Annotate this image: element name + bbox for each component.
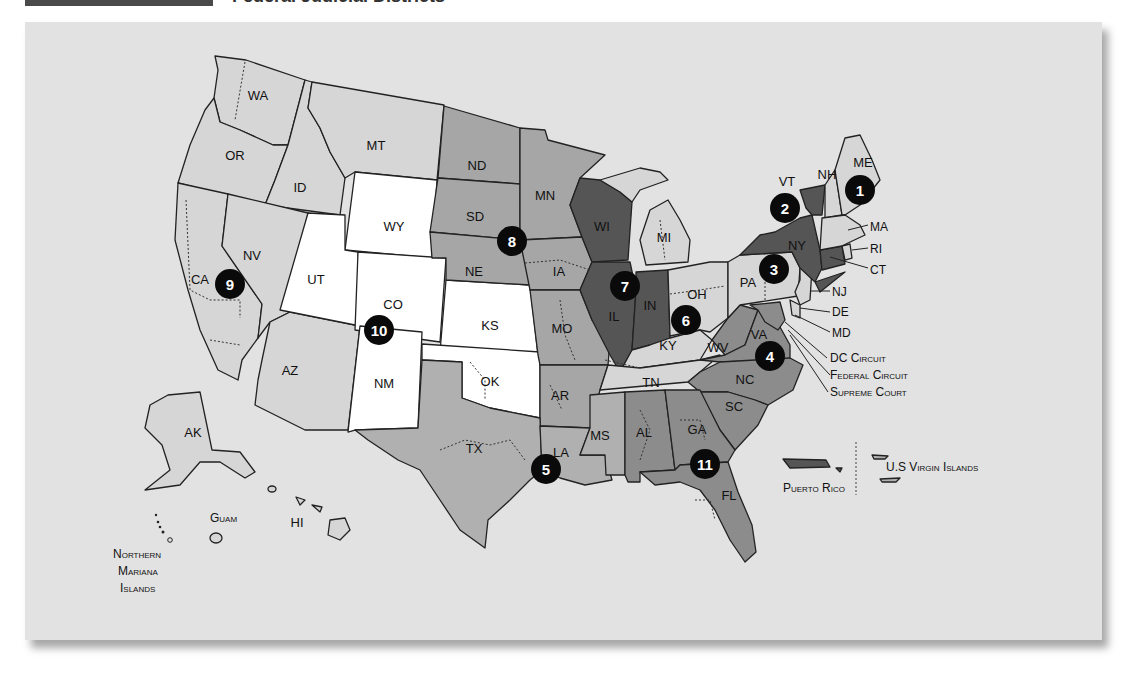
svg-text:AL: AL: [636, 425, 652, 440]
svg-text:VA: VA: [751, 327, 768, 342]
svg-text:VT: VT: [779, 174, 796, 189]
svg-text:TX: TX: [466, 441, 483, 456]
circuit-marker-3: 3: [759, 254, 789, 284]
svg-text:NC: NC: [736, 372, 755, 387]
circuit-marker-5: 5: [531, 454, 561, 484]
svg-text:ID: ID: [294, 180, 307, 195]
svg-text:HI: HI: [291, 515, 304, 530]
svg-text:Supreme Court: Supreme Court: [830, 385, 907, 399]
svg-text:NE: NE: [465, 264, 483, 279]
svg-text:SD: SD: [466, 209, 484, 224]
svg-text:MO: MO: [552, 321, 573, 336]
puerto-rico-shape: [783, 459, 830, 468]
circuit-map: WA OR ID MT WY CA NV UT CO AZ NM ND SD N…: [0, 0, 1127, 678]
svg-text:GA: GA: [688, 422, 707, 437]
guam-island: [210, 533, 222, 543]
svg-text:MN: MN: [535, 188, 555, 203]
svg-text:10: 10: [371, 322, 388, 339]
svg-text:SC: SC: [725, 399, 743, 414]
virgin-islands-shape-1: [872, 455, 888, 459]
svg-text:NM: NM: [374, 376, 394, 391]
svg-text:IL: IL: [609, 309, 620, 324]
svg-text:DC Circuit: DC Circuit: [830, 351, 886, 365]
svg-text:OK: OK: [481, 374, 500, 389]
svg-text:KY: KY: [659, 338, 677, 353]
svg-text:Mariana: Mariana: [118, 564, 158, 578]
svg-text:CA: CA: [191, 272, 209, 287]
svg-text:MI: MI: [657, 230, 671, 245]
svg-text:Islands: Islands: [120, 581, 155, 595]
circuit-marker-9: 9: [215, 269, 245, 299]
circuit-marker-7: 7: [610, 271, 640, 301]
svg-text:Federal Circuit: Federal Circuit: [830, 368, 908, 382]
svg-text:NH: NH: [818, 167, 837, 182]
circuit-marker-8: 8: [497, 226, 527, 256]
svg-text:AK: AK: [184, 425, 202, 440]
svg-text:OH: OH: [687, 287, 707, 302]
svg-text:MT: MT: [367, 138, 386, 153]
state-ak: [145, 392, 255, 490]
svg-text:11: 11: [697, 456, 713, 473]
svg-text:3: 3: [770, 261, 778, 278]
svg-text:WA: WA: [248, 88, 269, 103]
svg-text:7: 7: [621, 278, 629, 295]
svg-text:ME: ME: [853, 155, 873, 170]
virgin-islands-shape-2: [880, 478, 900, 482]
svg-text:MA: MA: [870, 220, 888, 234]
svg-text:Puerto Rico: Puerto Rico: [783, 481, 845, 495]
state-hi: [296, 497, 350, 540]
svg-text:MS: MS: [590, 428, 610, 443]
state-ma: [820, 215, 865, 250]
svg-text:4: 4: [766, 348, 775, 365]
svg-text:PA: PA: [740, 275, 757, 290]
svg-text:TN: TN: [642, 375, 659, 390]
svg-text:IN: IN: [644, 298, 657, 313]
svg-text:OR: OR: [225, 148, 245, 163]
state-hi-kauai: [268, 486, 276, 492]
circuit-marker-6: 6: [671, 305, 701, 335]
svg-text:AZ: AZ: [282, 363, 299, 378]
svg-text:2: 2: [781, 200, 789, 217]
svg-text:UT: UT: [307, 272, 324, 287]
state-az: [255, 312, 360, 430]
svg-text:U.S Virgin Islands: U.S Virgin Islands: [886, 460, 978, 474]
svg-text:CO: CO: [383, 297, 403, 312]
svg-text:8: 8: [508, 233, 516, 250]
state-vt: [800, 185, 825, 215]
circuit-marker-1: 1: [845, 175, 875, 205]
puerto-rico-islet: [836, 468, 842, 472]
svg-text:ND: ND: [468, 158, 487, 173]
circuit-marker-11: 11: [690, 449, 720, 479]
svg-text:1: 1: [856, 182, 864, 199]
svg-text:Northern: Northern: [113, 547, 161, 561]
svg-text:KS: KS: [481, 318, 499, 333]
circuit-marker-2: 2: [770, 193, 800, 223]
circuit-marker-10: 10: [364, 315, 394, 345]
svg-text:5: 5: [542, 461, 550, 478]
svg-text:WI: WI: [594, 219, 610, 234]
svg-text:9: 9: [226, 276, 234, 293]
svg-text:DE: DE: [832, 305, 849, 319]
svg-text:IA: IA: [553, 264, 566, 279]
svg-text:6: 6: [682, 312, 690, 329]
state-wy: [345, 172, 437, 258]
svg-text:FL: FL: [721, 488, 736, 503]
svg-text:NJ: NJ: [832, 285, 847, 299]
svg-text:AR: AR: [551, 388, 569, 403]
circuit-marker-4: 4: [755, 341, 785, 371]
svg-text:WV: WV: [708, 340, 729, 355]
northern-mariana-islands-shapes: [155, 514, 173, 543]
svg-text:Guam: Guam: [210, 511, 237, 525]
svg-text:WY: WY: [384, 219, 405, 234]
svg-text:NY: NY: [788, 238, 806, 253]
svg-text:CT: CT: [870, 263, 887, 277]
svg-text:MD: MD: [832, 326, 851, 340]
svg-text:NV: NV: [243, 248, 261, 263]
svg-text:RI: RI: [870, 242, 882, 256]
